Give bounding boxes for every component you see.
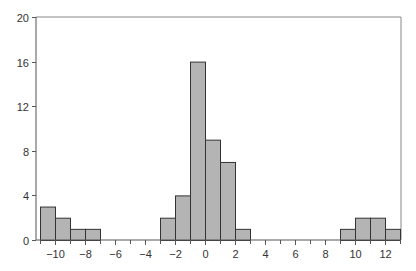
histogram-bar [236, 229, 251, 240]
histogram-bar [56, 218, 71, 240]
histogram-bar [356, 218, 371, 240]
histogram-bar [206, 140, 221, 240]
histogram-bar [71, 229, 86, 240]
y-axis-ticks: 048121620 [17, 12, 36, 247]
histogram-bar [176, 196, 191, 241]
histogram-chart: 048121620 −10−8−6−4−2024681012 [0, 0, 416, 271]
histogram-bars [41, 62, 401, 240]
y-tick-label: 0 [23, 235, 29, 247]
histogram-bar [161, 218, 176, 240]
x-tick-label: 2 [232, 248, 238, 260]
histogram-bar [371, 218, 386, 240]
histogram-bar [221, 162, 236, 240]
x-tick-label: −4 [139, 248, 152, 260]
histogram-bar [86, 229, 101, 240]
x-tick-label: 12 [379, 248, 391, 260]
histogram-bar [41, 207, 56, 240]
x-tick-label: −2 [169, 248, 182, 260]
x-tick-label: 8 [322, 248, 328, 260]
y-tick-label: 4 [23, 190, 29, 202]
x-tick-label: 6 [292, 248, 298, 260]
x-tick-label: 10 [349, 248, 361, 260]
x-tick-label: 0 [202, 248, 208, 260]
x-axis-ticks: −10−8−6−4−2024681012 [41, 240, 401, 260]
histogram-bar [386, 229, 401, 240]
x-tick-label: −8 [79, 248, 92, 260]
histogram-bar [341, 229, 356, 240]
x-tick-label: −10 [46, 248, 65, 260]
y-tick-label: 20 [17, 12, 29, 24]
x-tick-label: 4 [262, 248, 268, 260]
y-tick-label: 8 [23, 146, 29, 158]
histogram-bar [191, 62, 206, 240]
y-tick-label: 16 [17, 57, 29, 69]
y-tick-label: 12 [17, 101, 29, 113]
x-tick-label: −6 [109, 248, 122, 260]
